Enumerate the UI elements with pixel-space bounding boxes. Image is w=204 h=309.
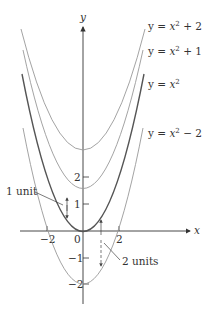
label-x2: y = x2 [147,78,180,90]
y-axis-label: y [79,11,87,23]
label-x2-plus-1: y = x2 + 1 [147,45,202,57]
x-axis-label: x [194,224,200,236]
annotation-2-units-leader [104,243,120,260]
label-x2-minus-2: y = x2 − 2 [147,127,202,139]
y-tick-label-1: 1 [74,198,81,210]
annotation-1-unit: 1 unit [6,185,38,197]
y-tick-label-2: 2 [74,171,81,183]
annotation-2-units: 2 units [122,255,159,267]
label-x2-plus-2: y = x2 + 2 [147,20,202,32]
x-tick-label-neg2: −2 [40,233,55,245]
y-tick-label-neg1: −1 [68,252,83,264]
annotation-1-unit-leader [35,192,63,205]
x-tick-label-0: 0 [74,233,81,245]
vertical-shift-parabolas-figure: x y −2 0 2 2 1 −1 −2 y = x2 + 2 y = x2 +… [0,0,204,309]
